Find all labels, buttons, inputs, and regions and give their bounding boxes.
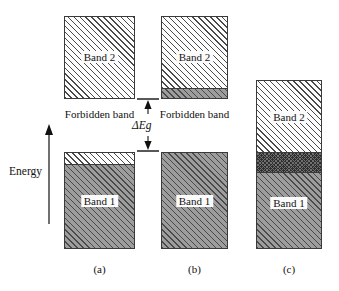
band-gap-arrow (137, 99, 159, 151)
energy-arrow (45, 124, 53, 224)
band-diagram-figure: Band 2 Band 1 Forbidden band (a) Band 2 … (0, 0, 339, 291)
annotation-overlay (0, 0, 339, 291)
